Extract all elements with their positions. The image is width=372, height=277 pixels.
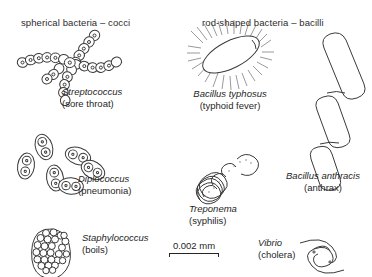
treponema-spiral-icon: [196, 154, 258, 203]
label-staphylococcus: Staphylococcus (boils): [82, 232, 149, 255]
bacillus-anthracis-common-name: (anthrax): [277, 182, 369, 194]
staphylococcus-common-name: (boils): [82, 244, 149, 256]
vibrio-scientific-name: Vibrio: [258, 237, 296, 249]
bacteria-diagram-canvas: [0, 0, 372, 277]
diplococcus-scientific-name: Diplococcus: [78, 173, 131, 185]
scale-bar: 0.002 mm: [166, 240, 222, 254]
streptococcus-scientific-name: Streptococcus: [62, 86, 122, 98]
vibrio-comma-icon: [300, 240, 344, 273]
scale-bar-line: [169, 253, 219, 254]
label-bacillus-anthracis: Bacillus anthracis (anthrax): [277, 170, 369, 193]
staphylococcus-cluster-icon: [32, 229, 71, 277]
bacillus-anthracis-scientific-name: Bacillus anthracis: [277, 170, 369, 182]
vibrio-common-name: (cholera): [258, 249, 296, 261]
bacillus-typhosus-scientific-name: Bacillus typhosus: [184, 88, 276, 100]
bacillus-anthracis-rods-icon: [310, 33, 365, 190]
bacillus-typhosus-common-name: (typhoid fever): [184, 100, 276, 112]
label-vibrio: Vibrio (cholera): [258, 237, 296, 260]
label-treponema: Treponema (syphilis): [189, 203, 237, 226]
label-diplococcus: Diplococcus (pneumonia): [78, 173, 131, 196]
scale-bar-label: 0.002 mm: [166, 240, 222, 251]
diplococcus-common-name: (pneumonia): [78, 185, 131, 197]
treponema-scientific-name: Treponema: [189, 203, 237, 215]
label-bacillus-typhosus: Bacillus typhosus (typhoid fever): [184, 88, 276, 111]
treponema-common-name: (syphilis): [189, 215, 237, 227]
staphylococcus-scientific-name: Staphylococcus: [82, 232, 149, 244]
label-streptococcus: Streptococcus (sore throat): [62, 86, 122, 109]
streptococcus-common-name: (sore throat): [62, 98, 122, 110]
bacillus-typhosus-flagella-icon: [187, 20, 274, 90]
